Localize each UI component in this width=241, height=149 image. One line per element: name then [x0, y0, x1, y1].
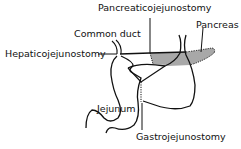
label-gastrojejunostomy: Gastrojejunostomy: [136, 131, 226, 142]
pancreas-shape: [150, 48, 215, 66]
whipple-reconstruction-diagram: Pancreaticojejunostomy Pancreas Common d…: [0, 0, 241, 149]
label-pancreaticojejunostomy: Pancreaticojejunostomy: [98, 2, 212, 13]
common-duct: [112, 40, 121, 54]
label-pancreas: Pancreas: [196, 19, 239, 30]
diagram-canvas: Pancreaticojejunostomy Pancreas Common d…: [0, 0, 241, 149]
label-common-duct: Common duct: [74, 28, 141, 39]
label-hepaticojejunostomy: Hepaticojejunostomy: [5, 48, 106, 59]
stomach-curve: [128, 66, 165, 82]
label-jejunum: Jejunum: [96, 103, 136, 114]
pancreas-pointer: [201, 28, 203, 52]
jejunal-loop: [86, 56, 121, 128]
